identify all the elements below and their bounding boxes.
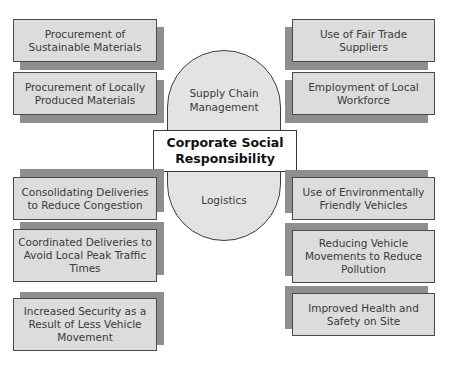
- center-text: Corporate Social: [167, 135, 284, 151]
- node-fair-trade: Use of Fair TradeSuppliers: [292, 19, 435, 62]
- center-text: Responsibility: [167, 151, 284, 167]
- node-text: Result of Less Vehicle: [24, 318, 147, 331]
- node-text: Coordinated Deliveries to: [18, 236, 152, 249]
- node-local-workforce: Employment of LocalWorkforce: [292, 72, 435, 115]
- logistics-label: Logistics: [167, 193, 281, 207]
- node-text: Produced Materials: [25, 94, 145, 107]
- supply-chain-label: Supply Chain Management: [167, 86, 281, 114]
- node-text: Procurement of: [29, 28, 142, 41]
- node-text: Use of Environmentally: [303, 186, 425, 199]
- node-text: Procurement of Locally: [25, 81, 145, 94]
- node-text: to Reduce Congestion: [21, 199, 148, 212]
- node-text: Sustainable Materials: [29, 41, 142, 54]
- node-text: Consolidating Deliveries: [21, 186, 148, 199]
- supply-chain-line1: Supply Chain: [167, 86, 281, 100]
- node-coordinated-deliveries: Coordinated Deliveries toAvoid Local Pea…: [13, 229, 157, 282]
- node-text: Movements to Reduce: [305, 250, 422, 263]
- node-text: Increased Security as a: [24, 305, 147, 318]
- node-increased-security: Increased Security as aResult of Less Ve…: [13, 298, 157, 351]
- node-health-safety: Improved Health andSafety on Site: [292, 293, 435, 336]
- node-text: Improved Health and: [308, 302, 419, 315]
- center-node-csr: Corporate SocialResponsibility: [153, 130, 297, 172]
- node-text: Workforce: [308, 94, 419, 107]
- node-text: Reducing Vehicle: [305, 237, 422, 250]
- node-procurement-sustainable: Procurement ofSustainable Materials: [13, 19, 157, 62]
- node-text: Use of Fair Trade: [320, 28, 407, 41]
- node-text: Safety on Site: [308, 315, 419, 328]
- node-text: Avoid Local Peak Traffic: [18, 249, 152, 262]
- node-reducing-vehicle-movements: Reducing VehicleMovements to ReducePollu…: [292, 230, 435, 283]
- node-text: Pollution: [305, 263, 422, 276]
- node-text: Suppliers: [320, 41, 407, 54]
- node-procurement-local: Procurement of LocallyProduced Materials: [13, 72, 157, 115]
- node-text: Friendly Vehicles: [303, 199, 425, 212]
- supply-chain-line2: Management: [167, 100, 281, 114]
- node-consolidating-deliveries: Consolidating Deliveriesto Reduce Conges…: [13, 177, 157, 220]
- node-text: Employment of Local: [308, 81, 419, 94]
- node-text: Times: [18, 262, 152, 275]
- node-environmental-vehicles: Use of EnvironmentallyFriendly Vehicles: [292, 177, 435, 220]
- node-text: Movement: [24, 331, 147, 344]
